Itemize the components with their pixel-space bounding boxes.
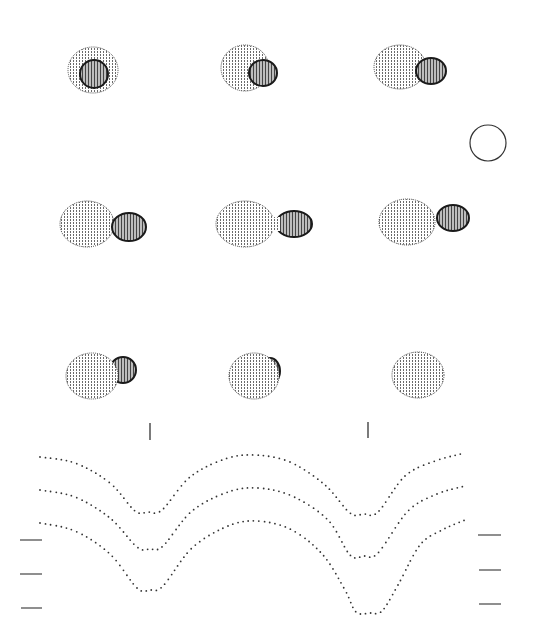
data-point <box>350 512 352 514</box>
data-point <box>433 460 435 462</box>
data-point <box>346 551 348 553</box>
data-point <box>417 467 419 469</box>
data-point <box>142 549 144 551</box>
data-point <box>359 613 361 615</box>
data-point <box>444 528 446 530</box>
data-point <box>449 456 451 458</box>
data-point <box>194 544 196 546</box>
data-point <box>231 490 233 492</box>
light-curve-curve-1 <box>39 453 461 516</box>
data-point <box>126 574 128 576</box>
data-point <box>50 524 52 526</box>
data-point <box>174 569 176 571</box>
binary-system-phase-7 <box>66 353 136 399</box>
data-point <box>304 537 306 539</box>
data-point <box>423 464 425 466</box>
primary-star <box>379 199 435 245</box>
data-point <box>163 508 165 510</box>
contact-neck <box>270 217 280 231</box>
data-point <box>407 565 409 567</box>
data-point <box>316 547 318 549</box>
data-point <box>364 513 366 515</box>
data-point <box>382 506 384 508</box>
data-point <box>397 483 399 485</box>
data-point <box>66 493 68 495</box>
data-point <box>45 523 47 525</box>
data-point <box>159 511 161 513</box>
data-point <box>374 555 376 557</box>
data-point <box>378 510 380 512</box>
data-point <box>346 509 348 511</box>
data-point <box>133 543 135 545</box>
data-point <box>283 492 285 494</box>
data-point <box>308 541 310 543</box>
data-point <box>123 569 125 571</box>
data-point <box>408 472 410 474</box>
data-point <box>444 457 446 459</box>
data-point <box>398 522 400 524</box>
data-point <box>412 555 414 557</box>
data-point <box>333 526 335 528</box>
primary-star <box>216 201 274 247</box>
data-point <box>76 531 78 533</box>
data-point <box>188 477 190 479</box>
data-point <box>308 472 310 474</box>
data-point <box>137 547 139 549</box>
data-point <box>236 488 238 490</box>
binary-system-phase-8 <box>229 353 280 399</box>
data-point <box>181 520 183 522</box>
data-point <box>50 491 52 493</box>
data-point <box>90 539 92 541</box>
data-point <box>70 495 72 497</box>
data-point <box>132 583 134 585</box>
data-point <box>278 457 280 459</box>
data-point <box>178 524 180 526</box>
data-point <box>342 505 344 507</box>
data-point <box>177 490 179 492</box>
data-point <box>441 491 443 493</box>
data-point <box>459 453 461 455</box>
orbital-phase-frames <box>60 45 469 399</box>
data-point <box>50 457 52 459</box>
data-point <box>197 506 199 508</box>
data-point <box>458 521 460 523</box>
data-point <box>394 589 396 591</box>
data-point <box>170 499 172 501</box>
data-point <box>355 611 357 613</box>
data-point <box>183 556 185 558</box>
data-point <box>413 469 415 471</box>
data-point <box>449 525 451 527</box>
data-point <box>55 491 57 493</box>
data-point <box>175 529 177 531</box>
data-point <box>60 492 62 494</box>
data-point <box>412 506 414 508</box>
data-point <box>328 488 330 490</box>
data-point <box>190 548 192 550</box>
data-point <box>289 528 291 530</box>
data-point <box>394 527 396 529</box>
data-point <box>208 535 210 537</box>
data-point <box>294 496 296 498</box>
data-point <box>339 500 341 502</box>
data-point <box>115 523 117 525</box>
data-point <box>394 488 396 490</box>
data-point <box>123 531 125 533</box>
magnitude-scale-markers <box>20 535 501 608</box>
data-point <box>391 532 393 534</box>
data-point <box>99 475 101 477</box>
data-point <box>197 471 199 473</box>
data-point <box>350 555 352 557</box>
data-point <box>258 520 260 522</box>
secondary-star <box>276 211 312 237</box>
data-point <box>317 478 319 480</box>
data-point <box>231 456 233 458</box>
data-point <box>359 514 361 516</box>
data-point <box>165 542 167 544</box>
data-point <box>161 546 163 548</box>
data-point <box>55 458 57 460</box>
data-point <box>152 548 154 550</box>
data-point <box>284 526 286 528</box>
data-point <box>421 542 423 544</box>
data-point <box>335 496 337 498</box>
data-point <box>115 560 117 562</box>
